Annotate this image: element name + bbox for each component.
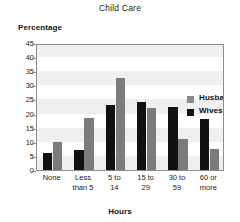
y-axis-tick-label: 30 — [12, 82, 34, 90]
x-axis-category-line: more — [189, 183, 228, 193]
y-axis-tick-label: 25 — [12, 96, 34, 104]
bar-husbands — [210, 149, 220, 170]
bar-wives — [43, 153, 53, 170]
x-axis-category-line: 60 or — [189, 173, 228, 183]
bar-group — [131, 45, 162, 170]
bar-husbands — [53, 142, 63, 170]
y-axis-tick-mark — [32, 171, 36, 172]
bar-groups — [37, 45, 223, 170]
bar-group — [162, 45, 193, 170]
bar-group — [37, 45, 68, 170]
bar-husbands — [147, 108, 157, 170]
y-axis-tick-label: 45 — [12, 40, 34, 48]
y-axis-tick-label: 35 — [12, 68, 34, 76]
bar-wives — [200, 119, 210, 170]
y-axis-tick-label: 5 — [12, 153, 34, 161]
legend-label-husbands: Husbands — [199, 93, 224, 102]
bar-husbands — [116, 78, 126, 170]
chart-container: Child Care Percentage 051015202530354045… — [0, 0, 240, 222]
legend-swatch-husbands-icon — [187, 96, 194, 103]
bar-group — [68, 45, 99, 170]
bar-husbands — [178, 139, 188, 170]
chart-title: Child Care — [0, 3, 240, 13]
y-axis-label: Percentage — [18, 23, 62, 32]
y-axis-tick-label: 10 — [12, 139, 34, 147]
y-axis-tick-label: 0 — [12, 167, 34, 175]
legend-label-wives: Wives — [199, 106, 223, 115]
legend-swatch-wives-icon — [187, 109, 194, 116]
y-axis-tick-label: 20 — [12, 111, 34, 119]
bar-group — [100, 45, 131, 170]
bar-wives — [168, 107, 178, 171]
bar-wives — [137, 102, 147, 170]
x-axis-label: Hours — [0, 207, 240, 216]
x-axis-category-label: 60 ormore — [189, 173, 228, 192]
y-axis-tick-label: 40 — [12, 54, 34, 62]
bar-husbands — [84, 118, 94, 170]
bar-wives — [74, 150, 84, 170]
plot-area: Husbands Wives — [36, 44, 224, 171]
y-axis-tick-label: 15 — [12, 125, 34, 133]
bar-wives — [106, 105, 116, 170]
